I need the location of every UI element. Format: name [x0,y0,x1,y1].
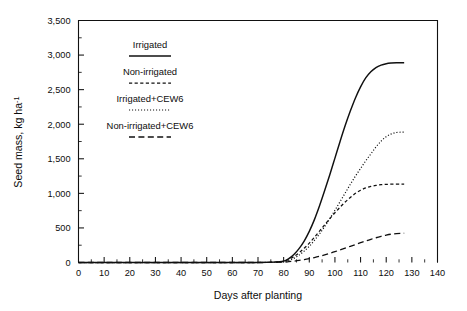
x-tick-label: 140 [430,268,445,278]
y-axis-title-superscript: -1 [12,96,21,103]
y-tick-label: 3,000 [48,50,71,60]
legend-label-non-irrigated: Non-irrigated [123,66,177,77]
x-tick-label: 40 [176,268,186,278]
y-axis-title: Seed mass, kg ha-1 [12,96,24,187]
y-axis-tick-labels: 05001,0001,5002,0002,5003,0003,500 [48,16,71,268]
x-tick-label: 130 [404,268,419,278]
x-tick-label: 90 [304,268,314,278]
x-tick-label: 70 [253,268,263,278]
y-tick-label: 1,500 [48,154,71,164]
x-tick-label: 10 [99,268,109,278]
x-axis-tick-labels: 0102030405060708090100110120130140 [76,268,445,278]
series-line-non-irrigated-cew6 [79,233,405,262]
seed-mass-line-chart: 05001,0001,5002,0002,5003,0003,500 01020… [0,0,467,311]
x-tick-label: 120 [379,268,394,278]
plot-frame [79,21,438,263]
y-tick-label: 2,000 [48,120,71,130]
series-line-irrigated-cew6 [79,132,405,262]
y-tick-label: 0 [65,258,70,268]
x-tick-label: 110 [353,268,368,278]
legend-label-irrigated-cew6: Irrigated+CEW6 [117,93,184,104]
series-line-non-irrigated [79,184,405,263]
x-tick-label: 100 [327,268,342,278]
chart-legend: IrrigatedNon-irrigatedIrrigated+CEW6Non-… [107,39,194,137]
x-tick-label: 60 [227,268,237,278]
x-tick-label: 20 [125,268,135,278]
legend-label-irrigated: Irrigated [133,39,167,50]
x-tick-label: 80 [279,268,289,278]
y-tick-label: 500 [55,223,70,233]
x-axis-major-ticks [79,257,438,263]
y-tick-label: 1,000 [48,189,71,199]
x-tick-label: 30 [150,268,160,278]
chart-container: 05001,0001,5002,0002,5003,0003,500 01020… [0,0,467,311]
x-tick-label: 0 [76,268,81,278]
x-axis-title: Days after planting [214,289,302,301]
y-tick-label: 2,500 [48,85,71,95]
x-tick-label: 50 [202,268,212,278]
y-tick-label: 3,500 [48,16,71,26]
y-axis-title-base: Seed mass, kg ha [12,103,24,188]
legend-label-non-irrigated-cew6: Non-irrigated+CEW6 [107,120,194,131]
